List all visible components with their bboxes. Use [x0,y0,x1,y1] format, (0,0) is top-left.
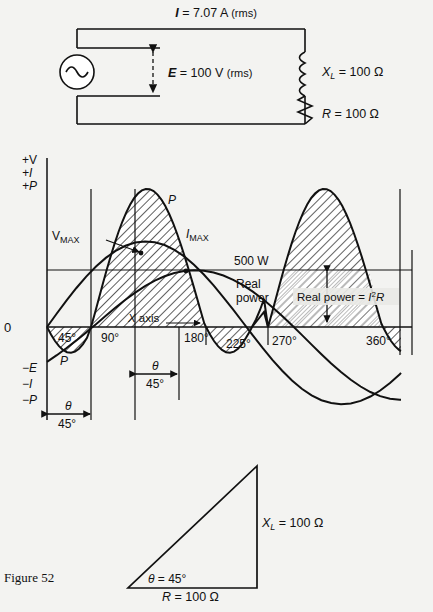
current-label: I = 7.07 A (rms) [175,6,257,20]
theta-value-left: 45° [58,417,76,431]
real-power-box-label: Real power = I2R [297,290,384,303]
resistor-label: R = 100 Ω [322,107,379,121]
theta-symbol-middle: θ [152,359,159,373]
theta-value-middle: 45° [146,377,164,391]
figure-svg: I = 7.07 A (rms) E = 100 V (rms) XL = 10… [0,0,433,612]
power-level-label: 500 W [234,254,269,268]
inductor-label: XL = 100 Ω [321,65,383,81]
real-power-label-1: Real [236,277,261,291]
x-tick-label-360: 360° [366,334,391,348]
axis-label-plus-v: +V [22,153,37,167]
x-tick-label-270: 270° [272,334,297,348]
ac-source-icon [60,55,94,89]
x-tick-label-90: 90° [101,331,119,345]
x-axis-annotation: X axis [127,312,160,324]
figure-caption: Figure 52 [4,570,54,586]
real-power-label-2: power [236,291,269,305]
vmax-point [139,251,144,256]
theta-symbol-left: θ [65,399,72,413]
imax-point [184,269,189,274]
triangle-xl-label: XL = 100 Ω [261,516,323,532]
triangle-theta-label: θ = 45° [148,572,187,586]
axis-label-minus-e: −E [22,361,38,375]
x-tick-label-180: 180° [184,331,209,345]
axis-label-minus-p: −P [22,393,37,407]
figure-52: I = 7.07 A (rms) E = 100 V (rms) XL = 10… [0,0,433,612]
axis-label-plus-i: +I [22,166,33,180]
x-tick-label-225: 225° [226,337,251,351]
source-voltage-label: E = 100 V (rms) [168,66,252,80]
axis-label-plus-p: +P [22,179,37,193]
power-label-bottom: P [60,354,68,368]
zero-label: 0 [4,320,11,335]
x-tick-label-45: 45° [58,331,76,345]
triangle-r-label: R = 100 Ω [162,590,219,604]
axis-label-minus-i: −I [22,377,33,391]
power-label-top: P [168,193,176,207]
